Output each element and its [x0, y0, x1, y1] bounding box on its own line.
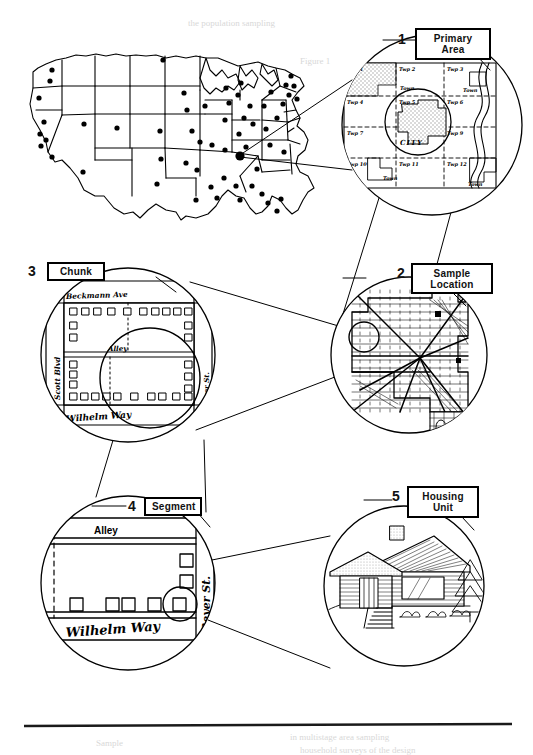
svg-text:Town: Town: [400, 85, 415, 91]
svg-text:Town: Town: [468, 181, 483, 187]
svg-text:Town: Town: [383, 175, 398, 181]
label-sample-location-line2: Location: [419, 279, 485, 290]
sample-location-detail: [331, 277, 487, 438]
city-label: CITY: [400, 138, 423, 147]
svg-text:Twp 11: Twp 11: [399, 161, 419, 168]
svg-text:Twp 10: Twp 10: [347, 161, 367, 168]
svg-text:Twp 9: Twp 9: [447, 130, 464, 137]
label-box-primary-area[interactable]: Primary Area: [415, 28, 491, 60]
street-scott-blvd: Scott Blvd: [53, 356, 62, 400]
label-segment: Segment: [152, 501, 194, 512]
street-alley-segment: Alley: [94, 525, 118, 536]
svg-text:Twp 3: Twp 3: [447, 66, 464, 73]
label-box-housing-unit[interactable]: Housing Unit: [407, 486, 479, 518]
street-alley-chunk: Alley: [107, 344, 128, 353]
footer-rule: [24, 724, 512, 726]
step-number-3: 3: [28, 264, 36, 278]
label-chunk: Chunk: [55, 266, 97, 277]
street-boyer-st-chunk: Boyer St.: [202, 372, 211, 409]
svg-text:Twp 5: Twp 5: [399, 99, 416, 106]
svg-text:Twp 7: Twp 7: [347, 130, 364, 137]
step-number-4: 4: [128, 499, 136, 513]
us-map-sample-points: [36, 57, 299, 213]
label-housing-unit-line2: Unit: [415, 502, 471, 513]
segment-detail: [36, 496, 215, 670]
primary-area-detail: [342, 35, 522, 215]
label-box-segment[interactable]: Segment: [144, 497, 202, 516]
svg-text:Twp 4: Twp 4: [347, 99, 364, 106]
selected-primary-area-dot: [235, 151, 244, 160]
step-number-1: 1: [398, 32, 406, 46]
label-box-chunk[interactable]: Chunk: [47, 262, 105, 281]
us-map: [30, 54, 314, 220]
housing-unit-detail: [324, 506, 488, 666]
street-beyer-st-segment: Beyer St.: [200, 576, 213, 633]
chunk-block: [64, 303, 194, 405]
step-number-2: 2: [397, 266, 405, 280]
label-sample-location-line1: Sample: [419, 268, 485, 279]
svg-text:Twp 2: Twp 2: [399, 66, 416, 73]
label-box-sample-location[interactable]: Sample Location: [411, 263, 493, 294]
step-number-5: 5: [392, 489, 400, 503]
figure-canvas: the population sampling Figure 1 Sample …: [0, 0, 533, 755]
svg-text:Twp 6: Twp 6: [447, 99, 464, 106]
label-housing-unit-line1: Housing: [415, 491, 471, 502]
label-primary-area-line1: Primary: [423, 33, 483, 44]
svg-text:Town: Town: [463, 87, 478, 93]
label-primary-area-line2: Area: [423, 44, 483, 55]
diagram-artwork: Twp 1 Twp 2 Twp 3 Town Town Twp 4 Twp 5 …: [0, 0, 533, 755]
svg-text:Twp 12: Twp 12: [447, 161, 467, 168]
